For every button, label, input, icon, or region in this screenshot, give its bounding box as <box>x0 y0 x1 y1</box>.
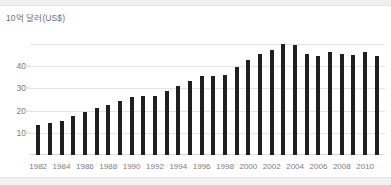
x-axis-tick-label-2006: 2006 <box>310 162 328 171</box>
y-axis-tick-mark-40 <box>25 66 30 67</box>
bottom-border-band <box>0 178 391 185</box>
bar <box>71 116 75 155</box>
bar <box>281 44 285 155</box>
bar <box>130 97 134 155</box>
bar <box>118 101 122 155</box>
bar <box>316 56 320 155</box>
bar <box>141 96 145 155</box>
bar <box>328 52 332 155</box>
bar <box>293 45 297 155</box>
plot-area: 10203040 <box>30 33 385 155</box>
bar <box>200 76 204 155</box>
bar <box>176 86 180 155</box>
x-axis-tick-label-1996: 1996 <box>193 162 211 171</box>
top-border-line <box>0 5 391 6</box>
x-axis-tick-label-1986: 1986 <box>76 162 94 171</box>
x-axis-tick-label-1982: 1982 <box>29 162 47 171</box>
bar <box>188 81 192 155</box>
x-axis-tick-label-1992: 1992 <box>146 162 164 171</box>
x-axis-tick-label-2002: 2002 <box>263 162 281 171</box>
bar <box>95 108 99 155</box>
bar <box>106 105 110 155</box>
bar <box>375 56 379 155</box>
x-axis-tick-label-2000: 2000 <box>239 162 257 171</box>
bar <box>305 54 309 155</box>
gridline-top <box>30 44 385 45</box>
x-axis-tick-label-2004: 2004 <box>286 162 304 171</box>
y-axis-tick-mark-30 <box>25 88 30 89</box>
bar <box>223 75 227 155</box>
y-axis-tick-mark-20 <box>25 110 30 111</box>
bar <box>36 125 40 155</box>
bar <box>270 50 274 155</box>
bar <box>153 96 157 155</box>
bar <box>258 54 262 155</box>
bar <box>211 76 215 155</box>
x-axis-tick-label-2008: 2008 <box>333 162 351 171</box>
bar <box>48 123 52 155</box>
bar <box>83 112 87 155</box>
x-axis-tick-label-1998: 1998 <box>216 162 234 171</box>
x-axis-tick-label-1984: 1984 <box>53 162 71 171</box>
x-axis-tick-label-1994: 1994 <box>169 162 187 171</box>
y-axis-unit-label: 10억 달러(US$) <box>6 11 65 23</box>
bar <box>340 54 344 155</box>
bar <box>235 67 239 155</box>
y-axis-tick-mark-10 <box>25 132 30 133</box>
x-axis-tick-label-2010: 2010 <box>356 162 374 171</box>
x-axis-tick-label-1988: 1988 <box>99 162 117 171</box>
chart-figure: 10억 달러(US$) 10203040 1982198419861988199… <box>0 0 391 185</box>
x-axis-tick-label-1990: 1990 <box>123 162 141 171</box>
x-axis-tick-labels: 1982198419861988199019921994199619982000… <box>30 155 385 175</box>
bar <box>60 121 64 155</box>
bottom-border-line <box>0 177 391 178</box>
bar <box>351 55 355 155</box>
bar <box>363 52 367 155</box>
bar <box>165 91 169 155</box>
bar <box>246 60 250 155</box>
